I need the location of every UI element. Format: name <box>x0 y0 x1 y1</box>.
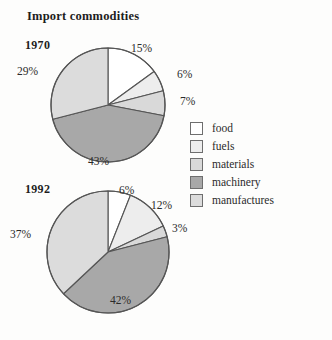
legend-label-machinery: machinery <box>212 176 261 188</box>
legend-item-manufactures: manufactures <box>190 191 274 209</box>
pie-1970-year-label: 1970 <box>25 38 50 53</box>
pie-1992-label-manufactures: 37% <box>10 228 31 240</box>
pie-1992-label-food: 6% <box>119 184 134 196</box>
legend-swatch-machinery <box>190 176 203 189</box>
legend-swatch-materials <box>190 158 203 171</box>
legend-item-materials: materials <box>190 155 274 173</box>
legend-label-materials: materials <box>212 158 254 170</box>
page-title: Import commodities <box>27 9 139 24</box>
pie-1992-label-materials: 3% <box>172 222 187 234</box>
legend-label-fuels: fuels <box>212 140 234 152</box>
pie-1970-label-fuels: 6% <box>177 68 192 80</box>
pie-chart-1970 <box>50 47 166 163</box>
legend-item-food: food <box>190 119 274 137</box>
pie-1970-label-manufactures: 29% <box>17 65 38 77</box>
legend-swatch-manufactures <box>190 194 203 207</box>
pie-chart-figure: Import commodities 1970 15% 6% 7% 43% 29… <box>0 0 332 340</box>
pie-1970-label-machinery: 43% <box>88 155 109 167</box>
pie-1970-svg <box>50 47 166 163</box>
pie-1970-label-food: 15% <box>131 42 152 54</box>
legend-swatch-fuels <box>190 140 203 153</box>
pie-1970-label-materials: 7% <box>180 95 195 107</box>
pie-1992-label-machinery: 42% <box>110 294 131 306</box>
legend-item-fuels: fuels <box>190 137 274 155</box>
pie-1992-label-fuels: 12% <box>151 199 172 211</box>
legend-label-manufactures: manufactures <box>212 194 274 206</box>
legend-label-food: food <box>212 122 233 134</box>
legend-item-machinery: machinery <box>190 173 274 191</box>
legend-swatch-food <box>190 122 203 135</box>
legend: food fuels materials machinery manufactu… <box>190 119 274 209</box>
